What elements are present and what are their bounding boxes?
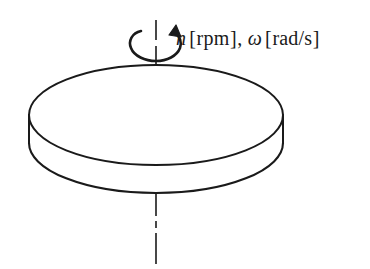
disk-diagram-canvas xyxy=(0,0,370,269)
rotation-arrow-head xyxy=(169,25,181,37)
rotating-disk-figure: n[rpm], ω[rad/s] xyxy=(0,0,370,269)
